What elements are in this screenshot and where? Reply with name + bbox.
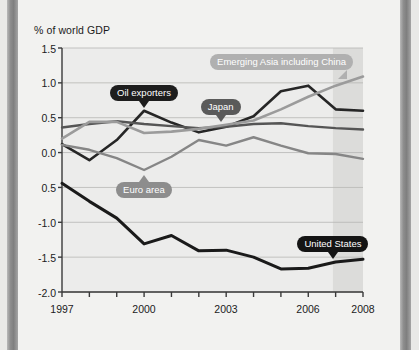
callout-tail-icon bbox=[328, 252, 338, 259]
y-tick-label-0-0: 0.0 bbox=[18, 147, 56, 159]
callout-euro-area[interactable]: Euro area bbox=[116, 182, 172, 198]
y-tick-label-neg-0-5: 0.5 bbox=[18, 182, 56, 194]
y-tick-label-neg-1-5: -1.5 bbox=[18, 252, 56, 264]
left-edge-bar bbox=[7, 0, 18, 350]
callout-euro-area-label: Euro area bbox=[123, 184, 165, 195]
callout-emerging-asia[interactable]: Emerging Asia including China bbox=[210, 54, 353, 70]
callout-japan[interactable]: Japan bbox=[201, 99, 241, 115]
y-tick-label-neg-2-0: -2.0 bbox=[18, 287, 56, 299]
y-tick-label-1-0: 1.0 bbox=[18, 77, 56, 89]
chart-screenshot: % of world GDP 1.5 1.0 0.5 0.0 0.5 -1.0 … bbox=[0, 0, 419, 350]
plot-background bbox=[62, 48, 363, 292]
x-tick-label-2008: 2008 bbox=[341, 303, 385, 315]
right-outer-gutter bbox=[411, 0, 419, 350]
chart-canvas: % of world GDP 1.5 1.0 0.5 0.0 0.5 -1.0 … bbox=[18, 0, 400, 350]
x-tick-label-2000: 2000 bbox=[122, 303, 166, 315]
right-edge-bar bbox=[400, 0, 411, 350]
callout-tail-icon bbox=[216, 115, 226, 122]
callout-oil-exporters-label: Oil exporters bbox=[117, 87, 171, 98]
callout-united-states-label: United States bbox=[304, 238, 361, 249]
y-tick-label-1-5: 1.5 bbox=[18, 43, 56, 55]
y-tick-label-0-5: 0.5 bbox=[18, 112, 56, 124]
callout-tail-icon bbox=[332, 70, 347, 79]
callout-oil-exporters[interactable]: Oil exporters bbox=[110, 85, 178, 101]
callout-tail-icon bbox=[139, 101, 149, 108]
x-tick-label-1997: 1997 bbox=[40, 303, 84, 315]
plot-svg bbox=[18, 0, 400, 350]
callout-united-states[interactable]: United States bbox=[297, 236, 368, 252]
x-tick-label-2006: 2006 bbox=[286, 303, 330, 315]
callout-japan-label: Japan bbox=[208, 101, 234, 112]
y-tick-label-neg-1-0: -1.0 bbox=[18, 217, 56, 229]
callout-emerging-asia-label: Emerging Asia including China bbox=[217, 56, 346, 67]
left-outer-gutter bbox=[0, 0, 7, 350]
x-tick-label-2003: 2003 bbox=[204, 303, 248, 315]
callout-tail-icon bbox=[139, 175, 149, 182]
